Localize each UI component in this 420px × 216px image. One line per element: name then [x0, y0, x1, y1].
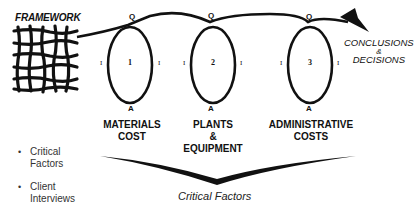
framework-grid-icon — [14, 26, 77, 92]
loop-2-number: 2 — [211, 58, 215, 67]
category-line: MATERIALS — [100, 119, 164, 131]
category-line: PLANTS — [180, 119, 246, 131]
bullet-text: Interviews — [30, 193, 75, 205]
bullet-item: • CriticalFactors — [18, 146, 75, 170]
loop-3-q-label: Q — [306, 12, 312, 21]
framework-title: FRAMEWORK — [15, 12, 80, 23]
loop-2-a-label: A — [208, 104, 214, 113]
loop-3-left-i: I — [280, 59, 282, 67]
category-line: COSTS — [266, 131, 356, 143]
category-line: ADMINISTRATIVE — [266, 119, 356, 131]
loop-2-q-label: Q — [208, 11, 214, 20]
loop-1-number: 1 — [128, 58, 132, 67]
category-materials-cost: MATERIALS COST — [100, 119, 164, 143]
bullet-text: Factors — [30, 158, 63, 170]
loop-3-right-i: I — [337, 59, 339, 67]
loop-1-q-label: Q — [129, 12, 135, 21]
bullet-text: Critical — [30, 146, 63, 158]
critical-factors-wedge — [100, 156, 356, 185]
category-line: & — [180, 131, 246, 143]
bullet-list: • CriticalFactors • ClientInterviews — [18, 146, 75, 216]
bullet-text: Client — [30, 181, 75, 193]
critical-factors-caption: Critical Factors — [178, 190, 251, 202]
category-administrative-costs: ADMINISTRATIVE COSTS — [266, 119, 356, 143]
category-plants-equipment: PLANTS & EQUIPMENT — [180, 119, 246, 155]
category-line: EQUIPMENT — [180, 143, 246, 155]
loop-1-a-label: A — [128, 104, 134, 113]
category-line: COST — [100, 131, 164, 143]
loop-1-right-i: I — [158, 59, 160, 67]
bullet-item: • ClientInterviews — [18, 181, 75, 205]
loop-1-left-i: I — [100, 59, 102, 67]
bullet-icon: • — [18, 146, 30, 170]
loop-3-a-label: A — [306, 104, 312, 113]
conclusions-decisions-label: CONCLUSIONS & DECISIONS — [344, 38, 414, 65]
outcome-line-3: DECISIONS — [344, 55, 414, 65]
loop-2-right-i: I — [240, 59, 242, 67]
bullet-icon: • — [18, 181, 30, 205]
loop-2-left-i: I — [183, 59, 185, 67]
loop-3-number: 3 — [308, 58, 312, 67]
